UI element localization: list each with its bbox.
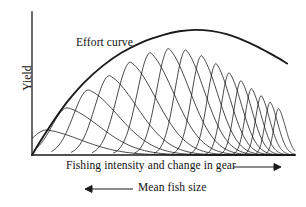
fishing-yield-figure: Yield Effort curve Fishing intensity and… <box>0 0 306 207</box>
cohort-curve <box>233 89 295 155</box>
y-axis-label: Yield <box>21 48 33 108</box>
cohort-curve <box>256 102 295 154</box>
cohort-curve <box>71 76 260 155</box>
mean-fish-size-arrow-head <box>85 186 92 193</box>
plot-canvas <box>0 0 306 207</box>
cohort-curves <box>32 49 295 155</box>
mean-fish-size-label: Mean fish size <box>138 181 206 193</box>
cohort-curve <box>266 109 295 154</box>
axes <box>32 12 295 155</box>
cohort-curve <box>190 64 295 155</box>
cohort-curve <box>220 81 295 155</box>
effort-curve-label: Effort curve <box>76 36 133 48</box>
fishing-intensity-arrow-head <box>274 164 281 171</box>
x-axis-label: Fishing intensity and change in gear <box>66 159 236 171</box>
cohort-curve <box>52 90 252 155</box>
